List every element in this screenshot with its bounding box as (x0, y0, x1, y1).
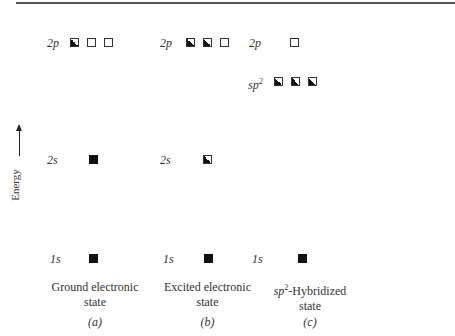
orbital-box-filled (89, 254, 98, 263)
level-label-sp2-c: sp2 (248, 75, 263, 92)
energy-axis: Energy (13, 124, 27, 204)
top-rule (16, 2, 455, 4)
orbital-box-half-filled (308, 77, 317, 86)
orbital-box-empty (290, 38, 299, 47)
sublabel-c: (c) (255, 315, 365, 330)
orbital-box-half-filled (70, 38, 79, 47)
caption-c-sp: sp (274, 284, 285, 298)
caption-a-line1: Ground electronic (40, 280, 150, 295)
caption-b: Excited electronic state (150, 280, 265, 310)
orbital-box-half-filled (203, 155, 212, 164)
level-label-1s-b: 1s (163, 252, 174, 266)
orbital-box-half-filled (291, 77, 300, 86)
orbital-box-half-filled (186, 38, 195, 47)
caption-a: Ground electronic state (40, 280, 150, 310)
orbital-box-empty (220, 38, 229, 47)
orbital-box-filled (298, 254, 307, 263)
caption-c-hybridized: -Hybridized (288, 284, 346, 298)
level-label-2p-c: 2p (249, 36, 261, 50)
caption-c-line2: state (255, 299, 365, 314)
level-label-2p-a: 2p (47, 36, 59, 50)
caption-c: sp2-Hybridized state (255, 280, 365, 314)
orbital-box-empty (87, 38, 96, 47)
caption-b-line1: Excited electronic (150, 280, 265, 295)
orbital-box-filled (89, 155, 98, 164)
caption-b-line2: state (150, 295, 265, 310)
level-label-2p-b: 2p (160, 36, 172, 50)
sublabel-a: (a) (40, 315, 150, 330)
sublabel-c-text: (c) (303, 315, 316, 329)
level-label-1s-a: 1s (50, 252, 61, 266)
sp2-label-prefix: sp (248, 78, 259, 92)
orbital-box-half-filled (203, 38, 212, 47)
orbital-box-half-filled (274, 77, 283, 86)
level-label-2s-b: 2s (160, 153, 171, 167)
energy-axis-label: Energy (9, 169, 21, 201)
sp2-label-sup: 2 (259, 77, 263, 86)
caption-c-line1: sp2-Hybridized (255, 280, 365, 299)
sublabel-a-text: (a) (88, 315, 102, 329)
sublabel-b: (b) (150, 315, 265, 330)
caption-a-line2: state (40, 295, 150, 310)
energy-arrow-line (19, 130, 20, 156)
level-label-2s-a: 2s (47, 153, 58, 167)
orbital-box-empty (104, 38, 113, 47)
level-label-1s-c: 1s (252, 252, 263, 266)
sublabel-b-text: (b) (201, 315, 215, 329)
orbital-box-filled (204, 254, 213, 263)
